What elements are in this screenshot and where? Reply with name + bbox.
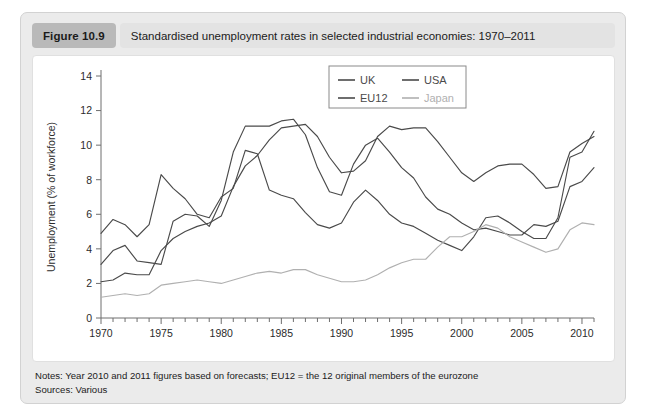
chart-plot-panel: 02468101214 1970197519801985199019952000… — [32, 55, 615, 362]
chart-legend: UKUSAEU12Japan — [329, 66, 466, 108]
sources-line: Sources: Various — [35, 383, 613, 397]
x-tick-label: 2005 — [510, 327, 534, 339]
y-tick-label: 2 — [86, 277, 92, 289]
chart-series-group — [101, 119, 594, 297]
y-tick-label: 0 — [86, 312, 92, 324]
legend-label-eu12: EU12 — [360, 92, 388, 104]
x-tick-label: 1990 — [330, 327, 354, 339]
series-line-uk — [101, 119, 594, 264]
x-tick-label: 1985 — [270, 327, 294, 339]
y-tick-label: 4 — [86, 243, 92, 255]
y-tick-label: 10 — [80, 139, 92, 151]
y-tick-label: 8 — [86, 174, 92, 186]
x-tick-label: 2010 — [570, 327, 594, 339]
legend-label-japan: Japan — [424, 92, 454, 104]
y-axis-title: Unemployment (% of workforce) — [45, 122, 57, 272]
series-line-usa — [101, 131, 594, 250]
legend-label-uk: UK — [360, 74, 376, 86]
figure-notes: Notes: Year 2010 and 2011 figures based … — [35, 369, 613, 397]
figure-caption: Standardised unemployment rates in selec… — [120, 23, 615, 48]
series-line-japan — [101, 223, 594, 297]
figure-card: Figure 10.9 Standardised unemployment ra… — [20, 12, 626, 404]
y-axis: 02468101214 — [80, 70, 101, 324]
x-tick-label: 1975 — [149, 327, 173, 339]
legend-label-usa: USA — [424, 74, 447, 86]
figure-header: Figure 10.9 Standardised unemployment ra… — [32, 23, 615, 48]
line-chart: 02468101214 1970197519801985199019952000… — [33, 56, 614, 361]
x-axis: 197019751980198519901995200020052010 — [89, 318, 594, 339]
figure-number-badge: Figure 10.9 — [32, 23, 116, 48]
series-line-eu12 — [101, 124, 594, 281]
y-tick-label: 12 — [80, 104, 92, 116]
x-tick-label: 1980 — [210, 327, 234, 339]
notes-line: Notes: Year 2010 and 2011 figures based … — [35, 369, 613, 383]
y-tick-label: 14 — [80, 70, 92, 82]
y-tick-label: 6 — [86, 208, 92, 220]
x-tick-label: 1970 — [89, 327, 113, 339]
x-tick-label: 1995 — [390, 327, 414, 339]
x-tick-label: 2000 — [450, 327, 474, 339]
